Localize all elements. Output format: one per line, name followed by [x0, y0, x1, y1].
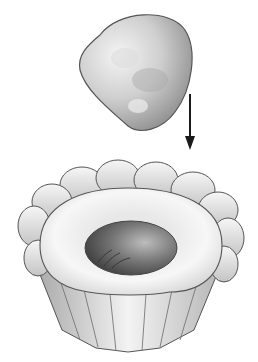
- down-arrow: [185, 94, 195, 150]
- dough-ball: [80, 15, 193, 131]
- tart-illustration: [0, 0, 258, 362]
- center-well: [85, 221, 177, 275]
- illustration-canvas: [0, 0, 258, 362]
